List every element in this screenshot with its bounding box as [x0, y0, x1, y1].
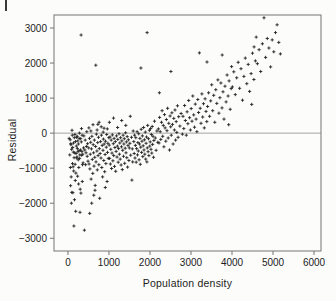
- x-tick-label: 0: [65, 257, 71, 268]
- y-tick-label: 3000: [25, 23, 48, 34]
- y-tick-label: 1000: [25, 93, 48, 104]
- y-tick-label: 0: [41, 128, 47, 139]
- data-points: [68, 16, 282, 232]
- y-axis-title: Residual: [6, 94, 20, 186]
- y-tick-label: −2000: [19, 198, 48, 209]
- x-tick-label: 2000: [139, 257, 162, 268]
- axes-layer: 0100020003000400050006000−3000−2000−1000…: [19, 15, 326, 268]
- y-tick-label: −3000: [19, 233, 48, 244]
- x-tick-label: 6000: [303, 257, 326, 268]
- y-tick-label: −1000: [19, 163, 48, 174]
- x-axis-title: Population density: [117, 277, 258, 291]
- x-tick-label: 5000: [262, 257, 285, 268]
- y-tick-label: 2000: [25, 58, 48, 69]
- x-tick-label: 1000: [98, 257, 121, 268]
- scatter-plot: 0100020003000400050006000−3000−2000−1000…: [0, 0, 336, 301]
- x-tick-label: 3000: [180, 257, 203, 268]
- scatter-markers: [68, 16, 282, 232]
- x-tick-label: 4000: [221, 257, 244, 268]
- figure: 0100020003000400050006000−3000−2000−1000…: [0, 0, 336, 301]
